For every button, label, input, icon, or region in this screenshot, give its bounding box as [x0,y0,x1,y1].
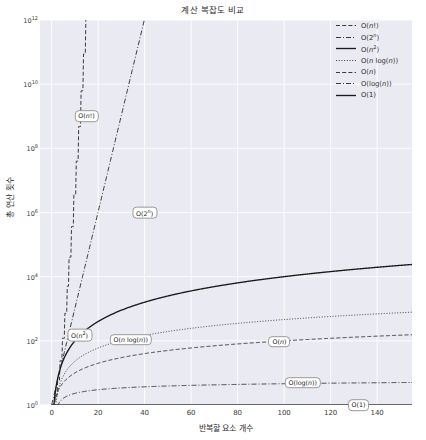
legend-line-sample [336,91,356,100]
chart-figure: 계산 복잡도 비교 총 연산 횟수 1001021041061081010101… [0,0,426,440]
legend-item-label: O(1) [361,91,376,99]
y-tick-label: 104 [2,272,38,282]
chart-title: 계산 복잡도 비교 [0,3,426,15]
y-axis-tick-labels: 10010210410610810101012 [0,20,38,405]
curve-annotation: O(n!) [74,110,98,122]
x-tick-label: 140 [370,409,383,417]
y-tick-label: 1010 [2,79,38,89]
x-axis-label: 반복할 요소 개수 [40,422,412,433]
legend-item[interactable]: O(2n) [336,32,426,44]
legend-item-label: O(n) [361,68,376,76]
y-tick-label: 106 [2,207,38,217]
legend-item-label: O(n!) [361,22,379,30]
legend-item[interactable]: O(n) [336,66,426,78]
legend-item[interactable]: O(log(n)) [336,78,426,90]
legend-item[interactable]: O(1) [336,90,426,102]
y-tick-label: 100 [2,400,38,410]
x-tick-label: 20 [94,409,103,417]
legend-line-sample [336,56,356,65]
legend-line-sample [336,21,356,30]
series-line [54,312,412,405]
curve-annotation: O(2n) [132,206,157,219]
x-tick-label: 100 [277,409,290,417]
curve-annotation: O(n log(n)) [109,334,151,346]
curve-annotation: O(n2) [67,329,92,342]
legend-line-sample [336,68,356,77]
legend-item-label: O(log(n)) [361,80,392,88]
legend-line-sample [336,33,356,42]
legend-item[interactable]: O(n log(n)) [336,55,426,67]
legend-item-label: O(n2) [361,44,379,54]
chart-legend: O(n!)O(2n)O(n2)O(n log(n))O(n)O(log(n))O… [336,20,426,101]
series-line [52,264,412,405]
y-tick-label: 102 [2,336,38,346]
x-tick-label: 120 [324,409,337,417]
legend-item-label: O(2n) [361,32,379,42]
x-axis-tick-labels: 020406080100120140 [40,409,412,423]
x-tick-label: 0 [49,409,53,417]
legend-line-sample [336,79,356,88]
x-tick-label: 80 [233,409,242,417]
y-tick-label: 108 [2,143,38,153]
curve-annotation: O(log(n)) [285,377,321,389]
legend-item[interactable]: O(n!) [336,20,426,32]
legend-line-sample [336,44,356,53]
curve-annotation: O(n) [269,336,291,348]
legend-item-label: O(n log(n)) [361,57,398,65]
legend-item[interactable]: O(n2) [336,43,426,55]
x-tick-label: 60 [187,409,196,417]
y-tick-label: 1012 [2,15,38,25]
x-tick-label: 40 [140,409,149,417]
